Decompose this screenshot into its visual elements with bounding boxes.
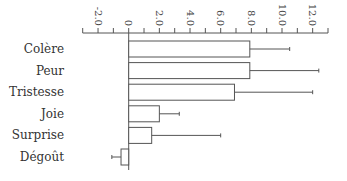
tick-label: 4.0 <box>185 10 196 26</box>
category-labels: ColèrePeurTristesseJoieSurpriseDégoût <box>9 42 64 164</box>
bar <box>129 84 235 100</box>
bar-group <box>129 106 180 122</box>
tick-label: 0 <box>123 20 134 26</box>
bar <box>129 63 250 79</box>
category-label: Joie <box>39 107 64 121</box>
category-label: Surprise <box>12 128 64 142</box>
tick-label: 2.0 <box>154 10 165 26</box>
bar-group <box>129 84 313 100</box>
tick-label: 6.0 <box>215 10 226 26</box>
bars <box>112 41 319 165</box>
bar <box>129 41 250 57</box>
bar <box>129 127 152 143</box>
bar <box>129 106 160 122</box>
category-label: Colère <box>24 42 64 56</box>
tick-label: 8.0 <box>246 10 257 26</box>
bar-group <box>112 149 129 165</box>
tick-label: -2.0 <box>93 7 104 26</box>
category-label: Dégoût <box>20 150 64 164</box>
bar-group <box>129 127 221 143</box>
bar-chart: -2.002.04.06.08.010.012.0 ColèrePeurTris… <box>0 0 347 181</box>
category-label: Peur <box>36 64 64 78</box>
bar-group <box>129 63 319 79</box>
tick-label: 12.0 <box>307 4 318 26</box>
category-label: Tristesse <box>9 85 64 99</box>
bar <box>121 149 129 165</box>
bar-group <box>129 41 290 57</box>
tick-label: 10.0 <box>277 4 288 26</box>
